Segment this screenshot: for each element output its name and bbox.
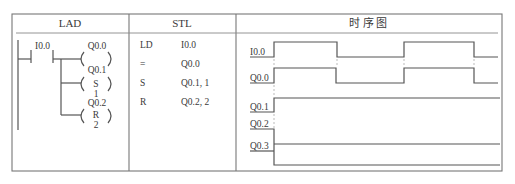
coil-address-q02: Q0.2 — [88, 98, 107, 108]
stl-op-4: R — [140, 97, 147, 107]
header-stl: STL — [172, 17, 192, 29]
stl-op-1: LD — [140, 40, 153, 50]
coil-count-reset: 2 — [94, 120, 99, 130]
stl-operand-2: Q0.0 — [181, 59, 200, 69]
stl-operand-3: Q0.1, 1 — [181, 78, 209, 88]
timing-diagram: I0.0 Q0.0 Q0.1 Q0.2 Q0.3 — [250, 42, 500, 165]
signal-label-q03: Q0.3 — [250, 141, 269, 151]
coil-type-reset: R — [93, 110, 100, 120]
coil-right-paren — [108, 52, 111, 66]
header-lad: LAD — [59, 17, 82, 29]
waveform-q00 — [250, 68, 498, 83]
header-timing: 时 序 图 — [349, 16, 388, 29]
waveform-q02 — [250, 129, 500, 165]
coil-address-q00: Q0.0 — [88, 41, 107, 51]
stl-operand-1: I0.0 — [181, 40, 196, 50]
plc-instruction-table: LAD STL 时 序 图 I0.0 Q0.0 Q0.1 S 1 Q0.2 R … — [0, 0, 515, 184]
signal-label-q00: Q0.0 — [250, 73, 269, 83]
signal-label-q01: Q0.1 — [250, 102, 269, 112]
ladder-diagram: I0.0 Q0.0 Q0.1 S 1 Q0.2 R 2 — [18, 40, 111, 130]
coil-address-q01: Q0.1 — [88, 65, 107, 75]
waveform-q01 — [250, 98, 500, 112]
stl-operand-4: Q0.2, 2 — [181, 97, 209, 107]
signal-label-i00: I0.0 — [250, 47, 265, 57]
stl-listing: LD I0.0 = Q0.0 S Q0.1, 1 R Q0.2, 2 — [140, 40, 209, 107]
waveform-i00 — [250, 42, 498, 57]
coil-type-set: S — [93, 79, 98, 89]
stl-op-2: = — [140, 59, 145, 69]
signal-label-q02: Q0.2 — [250, 119, 269, 129]
contact-label: I0.0 — [35, 41, 50, 51]
stl-op-3: S — [140, 78, 145, 88]
coil-left-paren — [81, 52, 84, 66]
